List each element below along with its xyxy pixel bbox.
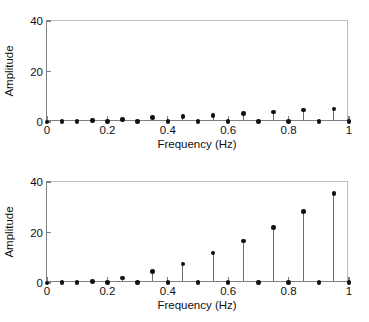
data-point xyxy=(135,280,140,285)
x-tick-label-bottom-5: 1 xyxy=(346,285,352,297)
data-point xyxy=(256,280,261,285)
x-tick-label-top-1: 0.2 xyxy=(99,124,115,136)
data-point xyxy=(75,119,80,124)
data-point xyxy=(120,117,125,122)
y-axis-title-bottom-text: Amplitude xyxy=(3,206,15,257)
x-axis-title-top: Frequency (Hz) xyxy=(46,138,348,150)
x-tick-label-bottom-0: 0 xyxy=(44,285,50,297)
y-tick-label-top-1: 20 xyxy=(30,66,43,78)
chart-panel-bottom: Amplitude 00.20.40.60.8102040 Frequency … xyxy=(0,161,369,322)
y-tick-top-2 xyxy=(47,20,51,21)
data-point xyxy=(135,119,140,124)
x-tick-label-top-2: 0.4 xyxy=(160,124,176,136)
data-point xyxy=(332,191,337,196)
data-point xyxy=(120,276,125,281)
y-tick-top-1 xyxy=(47,71,51,72)
y-tick-bottom-2 xyxy=(47,181,51,182)
plot-box-top: 00.20.40.60.8102040 xyxy=(46,20,348,121)
data-point xyxy=(211,113,216,118)
y-tick-label-top-0: 0 xyxy=(37,116,43,128)
stem-line xyxy=(333,192,334,281)
data-point xyxy=(150,115,155,120)
data-point xyxy=(286,280,291,285)
x-tick-label-bottom-4: 0.8 xyxy=(281,285,297,297)
stem-line xyxy=(213,251,214,281)
stem-line xyxy=(303,210,304,281)
data-point xyxy=(317,119,322,124)
y-axis-title-top: Amplitude xyxy=(2,20,16,121)
x-tick-label-bottom-1: 0.2 xyxy=(99,285,115,297)
data-point xyxy=(196,280,201,285)
y-tick-label-bottom-1: 20 xyxy=(30,227,43,239)
data-point xyxy=(105,119,110,124)
chart-panel-top: Amplitude 00.20.40.60.8102040 Frequency … xyxy=(0,0,369,161)
y-tick-label-bottom-2: 40 xyxy=(30,176,43,188)
data-point xyxy=(347,119,352,124)
data-point xyxy=(241,239,246,244)
plot-area-top: 00.20.40.60.8102040 xyxy=(47,21,347,120)
y-axis-title-top-text: Amplitude xyxy=(3,45,15,96)
data-point xyxy=(347,280,352,285)
data-point xyxy=(166,119,171,124)
data-point xyxy=(181,114,186,119)
data-point xyxy=(166,280,171,285)
data-point xyxy=(211,251,216,256)
stem-line xyxy=(273,225,274,281)
data-point xyxy=(90,118,95,123)
data-point xyxy=(60,119,65,124)
stem-line xyxy=(243,239,244,281)
data-point xyxy=(301,209,306,214)
data-point xyxy=(90,279,95,284)
data-point xyxy=(256,119,261,124)
data-point xyxy=(271,110,276,115)
x-tick-label-top-5: 1 xyxy=(346,124,352,136)
data-point xyxy=(196,119,201,124)
data-point xyxy=(60,280,65,285)
data-point xyxy=(271,225,276,230)
y-tick-label-bottom-0: 0 xyxy=(37,277,43,289)
y-tick-bottom-1 xyxy=(47,232,51,233)
plot-area-bottom: 00.20.40.60.8102040 xyxy=(47,182,347,281)
data-point xyxy=(286,119,291,124)
data-point xyxy=(150,269,155,274)
y-axis-title-bottom: Amplitude xyxy=(2,181,16,282)
y-tick-label-top-2: 40 xyxy=(30,15,43,27)
x-tick-label-top-0: 0 xyxy=(44,124,50,136)
data-point xyxy=(301,108,306,113)
data-point xyxy=(75,280,80,285)
x-tick-label-bottom-3: 0.6 xyxy=(220,285,236,297)
x-tick-label-bottom-2: 0.4 xyxy=(160,285,176,297)
x-tick-label-top-3: 0.6 xyxy=(220,124,236,136)
figure-two-stem-plots: Amplitude 00.20.40.60.8102040 Frequency … xyxy=(0,0,369,322)
data-point xyxy=(317,280,322,285)
data-point xyxy=(105,280,110,285)
data-point xyxy=(332,107,337,112)
data-point xyxy=(241,111,246,116)
plot-box-bottom: 00.20.40.60.8102040 xyxy=(46,181,348,282)
data-point xyxy=(181,262,186,267)
x-axis-title-bottom: Frequency (Hz) xyxy=(46,299,348,311)
x-tick-label-top-4: 0.8 xyxy=(281,124,297,136)
